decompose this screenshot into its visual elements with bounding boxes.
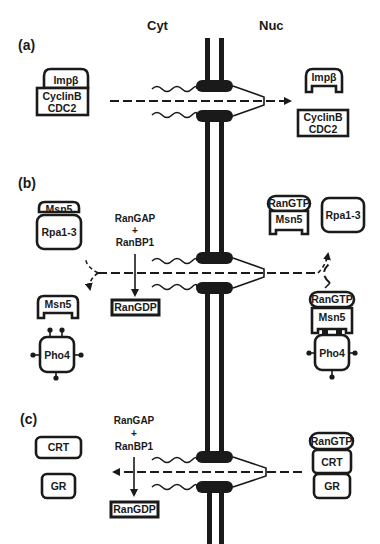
rangap-label-b: RanGAP (115, 213, 156, 224)
msn5-free: Msn5 (38, 296, 78, 318)
cyt-arrow-up-b (86, 260, 98, 273)
cdc2-label: CDC2 (48, 102, 77, 114)
rangtp-label-b2: RanGTP (311, 293, 352, 305)
rangtp-label-b1: RanGTP (268, 197, 309, 209)
rangdp-box-c: RanGDP (111, 502, 158, 517)
rpa-free: Rpa1-3 (322, 198, 364, 232)
ranbp1-label-c: RanBP1 (115, 441, 154, 452)
nuc-stub-b (325, 283, 330, 288)
plus-label-b: + (132, 225, 138, 236)
msn5-label-b2: Msn5 (276, 213, 303, 225)
cdc2-nuc-label: CDC2 (309, 123, 338, 135)
impb-cyclinb-complex: Impβ CyclinB CDC2 (37, 69, 88, 115)
impb-free: Impβ (306, 69, 342, 92)
crt-label-c1: CRT (48, 441, 70, 453)
nuclear-transport-diagram: Cyt Nuc (a) Impβ CyclinB CDC2 Impβ Cycli… (0, 0, 380, 544)
pho4-label-b1: Pho4 (44, 349, 70, 361)
rangtp-msn5-complex: RanGTP Msn5 (268, 196, 310, 234)
msn5-label-b1: Msn5 (46, 203, 73, 215)
panel-a-label: (a) (18, 37, 35, 53)
cytoplasm-header: Cyt (147, 18, 169, 33)
panel-b-label: (b) (18, 175, 36, 191)
rangdp-label-b: RanGDP (114, 301, 157, 313)
rangtp-crt-gr-complex: RanGTP CRT GR (310, 433, 353, 498)
nuc-merge-b (324, 263, 330, 283)
gr-label-c2: GR (324, 480, 340, 492)
crt-free: CRT (36, 437, 81, 458)
rangap-label-c: RanGAP (114, 415, 155, 426)
pho4-label-b2: Pho4 (319, 347, 345, 359)
rangdp-label-c: RanGDP (113, 503, 156, 515)
cyclinb-nuc-label: CyclinB (303, 111, 343, 123)
rpa-label-b2: Rpa1-3 (325, 209, 360, 221)
msn5-label-b3: Msn5 (45, 298, 72, 310)
impb-label: Impβ (53, 74, 79, 86)
pho4-free: Pho4 (30, 327, 83, 380)
impb-nuc-label: Impβ (311, 71, 337, 83)
gr-free: GR (42, 474, 75, 498)
plus-label-c: + (131, 428, 137, 439)
rangtp-label-c: RanGTP (311, 435, 352, 447)
gr-label-c1: GR (51, 480, 67, 492)
nucleus-header: Nuc (259, 18, 284, 33)
rangdp-box-b: RanGDP (112, 300, 159, 315)
msn5-rpa-complex: Msn5 Rpa1-3 (37, 202, 81, 249)
cyclinb-cdc2-free: CyclinB CDC2 (298, 110, 348, 136)
nuclear-pore-c (152, 451, 266, 544)
rpa-label-b1: Rpa1-3 (41, 226, 76, 238)
nuc-arrow-up-b (318, 254, 328, 273)
cyclinb-label: CyclinB (42, 90, 82, 102)
crt-label-c2: CRT (321, 456, 343, 468)
cyt-arrow-down-b (90, 273, 98, 289)
rangtp-msn5-pho4-complex: RanGTP Msn5 Pho4 (306, 292, 357, 380)
msn5-label-b4: Msn5 (319, 311, 346, 323)
ranbp1-label-b: RanBP1 (116, 237, 155, 248)
panel-c-label: (c) (20, 411, 37, 427)
